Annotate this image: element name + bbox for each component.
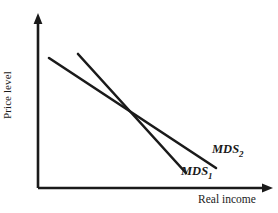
y-axis-label: Price level — [2, 71, 13, 119]
curve-label-mds2-subscript: 2 — [239, 149, 244, 159]
x-axis-label: Real income — [198, 194, 256, 206]
mds-diagram-figure: Price level Real income MDS2 MDS1 — [0, 0, 278, 213]
curve-label-mds2: MDS2 — [212, 143, 244, 159]
curve-label-mds1-subscript: 1 — [208, 171, 213, 181]
curve-label-mds1: MDS1 — [181, 165, 213, 181]
curve-label-mds2-text: MDS — [212, 142, 239, 156]
curve-label-mds1-text: MDS — [181, 164, 208, 178]
curve-mds1 — [78, 54, 186, 173]
y-axis-arrow-icon — [34, 13, 43, 24]
x-axis-arrow-icon — [262, 184, 273, 193]
diagram-canvas — [0, 0, 278, 213]
